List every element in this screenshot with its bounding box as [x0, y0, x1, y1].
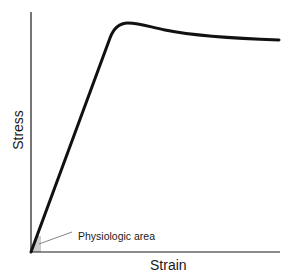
physiologic-area-label: Physiologic area — [78, 230, 155, 242]
stress-strain-chart: Stress Strain Physiologic area — [0, 0, 293, 278]
annotation-leader-line — [39, 232, 72, 244]
y-axis-label: Stress — [10, 110, 26, 150]
stress-strain-curve — [31, 23, 279, 252]
x-axis-label: Strain — [150, 257, 187, 273]
